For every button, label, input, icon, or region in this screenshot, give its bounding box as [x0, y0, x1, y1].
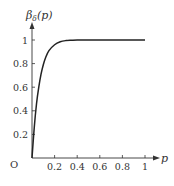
x-tick-label: 1	[142, 161, 148, 172]
x-axis-arrow-icon	[153, 156, 160, 161]
y-tick-label: 0.8	[13, 58, 28, 69]
origin-label: O	[10, 159, 18, 170]
x-tick-label: 0.4	[70, 161, 85, 172]
x-tick-label: 0.8	[115, 161, 130, 172]
axes	[30, 22, 161, 161]
y-tick-label: 1	[22, 35, 28, 46]
chart: 0.20.40.60.810.20.40.60.81 βδ(p) p O	[0, 0, 174, 186]
x-axis-label: p	[161, 152, 168, 165]
x-tick-label: 0.2	[47, 161, 62, 172]
series-line	[32, 40, 145, 158]
y-axis-label: βδ(p)	[25, 9, 53, 23]
curve-layer	[32, 40, 145, 158]
y-tick-label: 0.6	[13, 82, 28, 93]
y-tick-label: 0.2	[13, 129, 28, 140]
y-tick-label: 0.4	[13, 105, 28, 116]
x-tick-label: 0.6	[92, 161, 107, 172]
y-axis-arrow-icon	[30, 22, 35, 29]
